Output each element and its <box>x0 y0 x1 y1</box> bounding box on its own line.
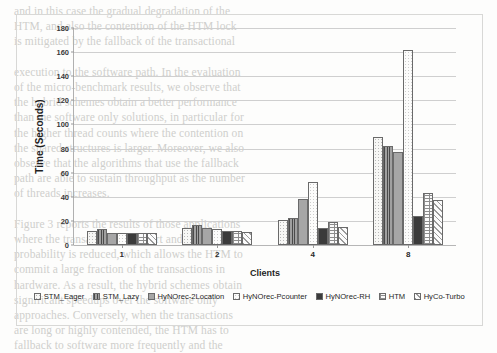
bar-HyNOrec-RH-8[interactable] <box>413 216 423 245</box>
bar-HyCo-Turbo-1[interactable] <box>147 233 157 245</box>
bar-group-1: 1 <box>74 28 170 245</box>
bars <box>87 28 157 245</box>
legend-swatch-HyNOrec-Pcounter <box>233 293 240 300</box>
bar-HyNOrec-2Location-2[interactable] <box>202 228 212 245</box>
legend-item-STM_Eager[interactable]: STM_Eager <box>34 292 84 301</box>
legend-item-HTM[interactable]: HTM <box>379 292 405 301</box>
bar-HyNOrec-RH-2[interactable] <box>222 231 232 245</box>
legend-item-HyCo-Turbo[interactable]: HyCo-Turbo <box>414 292 465 301</box>
bar-HyNOrec-2Location-1[interactable] <box>107 233 117 245</box>
chart-figure: Time (Seconds) 020406080100120140160180 … <box>16 14 483 326</box>
bar-HyNOrec-2Location-8[interactable] <box>393 152 403 245</box>
chart-legend: STM_EagerSTM_LazyHyNOrec-2LocationHyNOre… <box>17 292 482 301</box>
y-tick-label-100: 100 <box>56 120 69 129</box>
bar-STM_Eager-8[interactable] <box>373 137 383 246</box>
legend-swatch-HyCo-Turbo <box>414 293 421 300</box>
y-tick-label-120: 120 <box>56 96 69 105</box>
bars <box>278 28 348 245</box>
legend-label-HTM: HTM <box>389 292 405 301</box>
bar-groups: 1248 <box>74 28 456 245</box>
x-tick-mark-1 <box>122 245 123 248</box>
bar-HyNOrec-Pcounter-8[interactable] <box>403 50 413 245</box>
bar-HyNOrec-Pcounter-1[interactable] <box>117 233 127 245</box>
y-tick-label-80: 80 <box>61 144 69 153</box>
bars <box>373 28 443 245</box>
bar-HTM-4[interactable] <box>328 222 338 246</box>
bar-HyNOrec-RH-1[interactable] <box>127 233 137 245</box>
x-tick-label-4: 4 <box>311 250 315 259</box>
legend-label-HyCo-Turbo: HyCo-Turbo <box>424 292 465 301</box>
bar-STM_Eager-1[interactable] <box>87 231 97 245</box>
x-tick-label-8: 8 <box>406 250 410 259</box>
legend-label-STM_Eager: STM_Eager <box>44 292 85 301</box>
y-tick-label-60: 60 <box>61 168 69 177</box>
bar-STM_Lazy-1[interactable] <box>97 229 107 245</box>
bars <box>182 28 252 245</box>
y-tick-label-140: 140 <box>56 72 69 81</box>
legend-swatch-HyNOrec-2Location <box>148 293 155 300</box>
legend-swatch-HyNOrec-RH <box>316 293 323 300</box>
bar-HyNOrec-2Location-4[interactable] <box>298 199 308 245</box>
x-tick-label-2: 2 <box>215 250 219 259</box>
x-axis-title: Clients <box>74 268 456 278</box>
gridline-0 <box>74 245 456 246</box>
bar-HyNOrec-Pcounter-4[interactable] <box>308 182 318 245</box>
bar-HyCo-Turbo-8[interactable] <box>433 200 443 245</box>
bar-STM_Lazy-2[interactable] <box>192 225 202 245</box>
plot-area: 020406080100120140160180 1248 <box>74 28 456 245</box>
x-tick-label-1: 1 <box>120 250 124 259</box>
legend-item-HyNOrec-RH[interactable]: HyNOrec-RH <box>316 292 370 301</box>
bar-HyNOrec-RH-4[interactable] <box>318 228 328 245</box>
x-tick-mark-8 <box>408 245 409 248</box>
bar-group-2: 2 <box>170 28 266 245</box>
legend-swatch-HTM <box>379 293 386 300</box>
legend-item-HyNOrec-Pcounter[interactable]: HyNOrec-Pcounter <box>233 292 307 301</box>
legend-swatch-STM_Lazy <box>93 293 100 300</box>
bar-HTM-8[interactable] <box>423 193 433 245</box>
y-tick-label-0: 0 <box>65 241 69 250</box>
y-axis-title: Time (Seconds) <box>31 28 47 245</box>
bar-HTM-2[interactable] <box>232 231 242 245</box>
bar-group-4: 4 <box>265 28 361 245</box>
legend-item-STM_Lazy[interactable]: STM_Lazy <box>93 292 139 301</box>
bar-HyNOrec-Pcounter-2[interactable] <box>212 229 222 245</box>
bar-STM_Eager-4[interactable] <box>278 220 288 245</box>
legend-item-HyNOrec-2Location[interactable]: HyNOrec-2Location <box>148 292 224 301</box>
bar-STM_Lazy-4[interactable] <box>288 218 298 245</box>
legend-swatch-STM_Eager <box>34 293 41 300</box>
bar-STM_Eager-2[interactable] <box>182 228 192 245</box>
y-tick-label-20: 20 <box>61 216 69 225</box>
legend-label-HyNOrec-Pcounter: HyNOrec-Pcounter <box>243 292 307 301</box>
bar-HyCo-Turbo-2[interactable] <box>242 232 252 245</box>
bar-HTM-1[interactable] <box>137 233 147 245</box>
y-axis-title-label: Time (Seconds) <box>34 99 45 173</box>
legend-label-HyNOrec-RH: HyNOrec-RH <box>325 292 370 301</box>
y-tick-label-160: 160 <box>56 48 69 57</box>
x-tick-mark-2 <box>217 245 218 248</box>
y-tick-label-180: 180 <box>56 24 69 33</box>
bar-HyCo-Turbo-4[interactable] <box>338 227 348 245</box>
y-tick-label-40: 40 <box>61 192 69 201</box>
bar-STM_Lazy-8[interactable] <box>383 146 393 245</box>
bar-group-8: 8 <box>361 28 457 245</box>
legend-label-HyNOrec-2Location: HyNOrec-2Location <box>158 292 225 301</box>
x-tick-mark-4 <box>313 245 314 248</box>
legend-label-STM_Lazy: STM_Lazy <box>103 292 139 301</box>
